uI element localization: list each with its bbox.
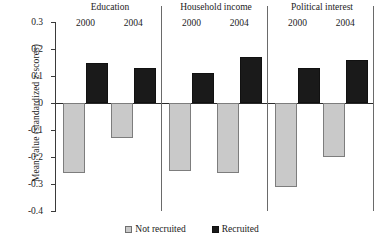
group-separator — [267, 6, 268, 211]
bar — [275, 103, 297, 187]
year-label: 2004 — [230, 18, 249, 28]
bar — [240, 57, 262, 103]
group-title: Political interest — [291, 2, 353, 12]
bar — [134, 68, 156, 103]
year-label: 2000 — [288, 18, 307, 28]
chart-legend: Not recruitedRecruited — [0, 224, 384, 234]
bar — [111, 103, 133, 138]
y-axis-tick-label: -0.2 — [9, 152, 43, 162]
bar-chart-figure: Mean value (standardized z-scores) 0.30.… — [0, 0, 384, 246]
bar — [169, 103, 191, 171]
y-axis-tick-label: -0.4 — [9, 206, 43, 216]
y-axis-line — [55, 22, 56, 211]
y-axis-tick: 0 — [51, 103, 56, 104]
y-axis-tick: -0.3 — [51, 184, 56, 185]
bar — [323, 103, 345, 157]
group-separator — [161, 6, 162, 211]
y-axis-tick-label: -0.3 — [9, 179, 43, 189]
y-axis-tick: -0.1 — [51, 130, 56, 131]
y-axis-tick: -0.4 — [51, 211, 56, 212]
legend-item: Not recruited — [125, 224, 185, 234]
year-label: 2004 — [124, 18, 143, 28]
bar — [63, 103, 85, 173]
bar — [192, 73, 214, 103]
group-separator — [373, 6, 374, 211]
y-axis-tick-label: 0.2 — [9, 44, 43, 54]
y-axis-tick: -0.2 — [51, 157, 56, 158]
y-axis-tick: 0.3 — [51, 22, 56, 23]
year-label: 2000 — [182, 18, 201, 28]
y-axis-tick-label: 0.1 — [9, 71, 43, 81]
bar — [298, 68, 320, 103]
year-label: 2004 — [336, 18, 355, 28]
y-axis-tick: 0.2 — [51, 49, 56, 50]
legend-label: Recruited — [222, 224, 259, 234]
legend-item: Recruited — [212, 224, 259, 234]
plot-area: 0.30.20.10-0.1-0.2-0.3-0.4 Education2000… — [57, 22, 375, 211]
group-title: Education — [91, 2, 130, 12]
legend-swatch-icon — [212, 226, 219, 233]
y-axis-tick-label: 0.3 — [9, 17, 43, 27]
group-title: Household income — [180, 2, 252, 12]
bar — [217, 103, 239, 173]
y-axis-tick: 0.1 — [51, 76, 56, 77]
bar — [346, 60, 368, 103]
legend-label: Not recruited — [135, 224, 185, 234]
bar — [86, 63, 108, 104]
y-axis-tick-label: -0.1 — [9, 125, 43, 135]
year-label: 2000 — [76, 18, 95, 28]
y-axis-tick-label: 0 — [9, 98, 43, 108]
legend-swatch-icon — [125, 226, 132, 233]
